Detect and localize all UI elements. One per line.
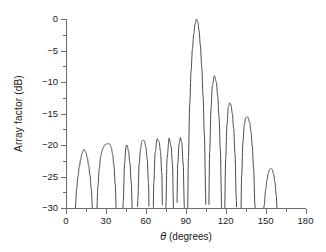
y-tick-major: [61, 51, 66, 52]
x-tick-label: 0: [51, 216, 81, 226]
y-tick-label: −5: [24, 46, 58, 56]
x-tick-major: [226, 209, 227, 214]
x-tick-label: 90: [171, 216, 201, 226]
x-tick-minor: [86, 209, 87, 212]
y-tick-label: −20: [24, 140, 58, 150]
y-tick-major: [61, 114, 66, 115]
x-tick-minor: [126, 209, 127, 212]
y-tick-major: [61, 82, 66, 83]
y-tick-major: [61, 177, 66, 178]
y-axis-line: [66, 19, 67, 209]
x-tick-major: [106, 209, 107, 214]
y-tick-label: 0: [24, 14, 58, 24]
x-tick-minor: [286, 209, 287, 212]
x-tick-major: [186, 209, 187, 214]
y-tick-label: −25: [24, 172, 58, 182]
y-tick-minor: [63, 129, 66, 130]
x-tick-label: 30: [91, 216, 121, 226]
y-tick-minor: [63, 98, 66, 99]
x-tick-major: [266, 209, 267, 214]
y-tick-minor: [63, 161, 66, 162]
x-tick-label: 60: [131, 216, 161, 226]
plot-area: [66, 19, 305, 208]
x-tick-minor: [166, 209, 167, 212]
x-axis-title: θ (degrees): [66, 231, 306, 242]
x-tick-minor: [246, 209, 247, 212]
y-tick-label: −30: [24, 203, 58, 213]
y-tick-minor: [63, 192, 66, 193]
y-axis-title: Array factor (dB): [13, 44, 24, 184]
x-axis-title-rest: (degrees): [166, 231, 212, 242]
y-tick-major: [61, 145, 66, 146]
y-tick-label: −10: [24, 77, 58, 87]
x-tick-minor: [206, 209, 207, 212]
x-tick-major: [146, 209, 147, 214]
x-tick-label: 180: [291, 216, 321, 226]
y-tick-minor: [63, 66, 66, 67]
x-tick-major: [66, 209, 67, 214]
x-tick-major: [306, 209, 307, 214]
y-tick-minor: [63, 35, 66, 36]
array-factor-chart-figure: 0−5−10−15−20−25−300306090120150180 Array…: [0, 0, 326, 252]
y-tick-label: −15: [24, 109, 58, 119]
y-tick-major: [61, 19, 66, 20]
x-tick-label: 120: [211, 216, 241, 226]
x-tick-label: 150: [251, 216, 281, 226]
